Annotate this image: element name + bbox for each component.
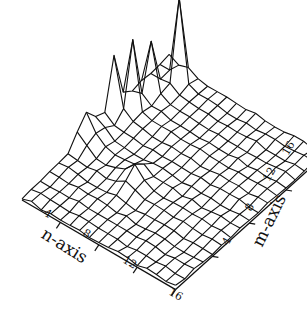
- mesh-line-n: [41, 0, 188, 210]
- m-tick-mark: [249, 223, 255, 224]
- mesh-line-m: [160, 0, 307, 161]
- n-tick-mark: [56, 222, 60, 228]
- mesh-line-n: [108, 113, 255, 247]
- surface-plot: n-axis m-axis 4 8 12 16 4 8 12 16: [0, 0, 307, 313]
- m-tick-mark: [212, 256, 218, 257]
- mesh-line-n: [89, 103, 236, 237]
- n-axis-label: n-axis: [38, 223, 91, 267]
- n-tick-mark: [95, 245, 99, 251]
- mesh-line-n: [22, 54, 169, 199]
- mesh-line-m: [142, 41, 296, 180]
- m-axis-line: [176, 157, 307, 290]
- m-tick-mark: [286, 190, 292, 191]
- n-tick-4: 4: [42, 206, 55, 221]
- mesh-line-n: [166, 149, 307, 281]
- mesh-line-m: [59, 163, 213, 255]
- n-tick-16: 16: [167, 285, 186, 303]
- m-tick-8: 8: [242, 201, 257, 214]
- m-tick-16: 16: [279, 139, 297, 158]
- m-axis-label: m-axis: [248, 191, 290, 250]
